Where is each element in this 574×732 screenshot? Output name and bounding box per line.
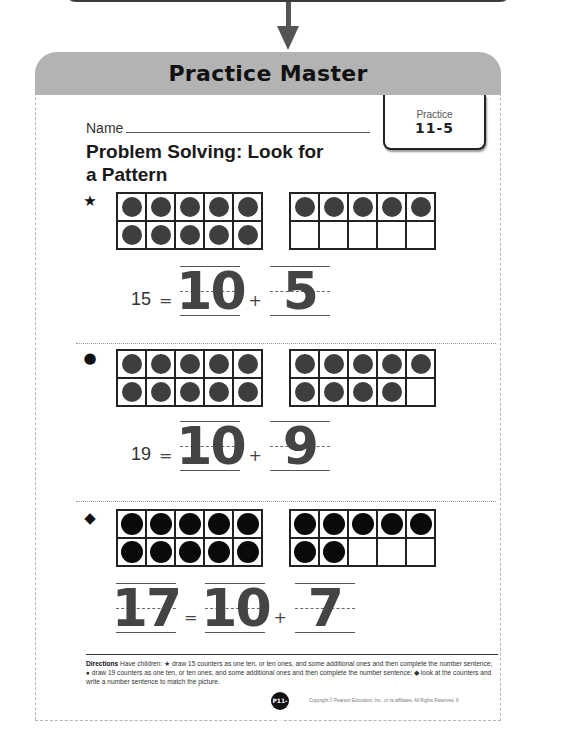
directions-text: Have children: ★ draw 15 counters as one… (86, 660, 492, 685)
directions: Directions Have children: ★ draw 15 coun… (86, 654, 498, 686)
lesson-tab: Practice 11-5 (383, 95, 486, 150)
ones-answer-box[interactable]: 7 (295, 583, 355, 633)
sheet-header: Practice Master (35, 52, 501, 95)
equation-total: 19 (131, 444, 151, 465)
plus-sign: + (248, 446, 261, 465)
number-sentence: 15 = 10 + 5 (131, 266, 330, 316)
equals-sign: = (159, 291, 172, 310)
practice-master-sheet: Practice Master Practice 11-5 Name Probl… (35, 52, 501, 721)
ones-answer-box[interactable]: 5 (270, 266, 330, 316)
section-divider (76, 343, 496, 344)
ones-answer: 5 (283, 267, 317, 315)
fish-icon: ◆ (82, 510, 98, 526)
ten-frame-right (289, 192, 436, 250)
number-sentence: 17 = 10 + 7 (116, 583, 355, 633)
directions-label: Directions (86, 660, 118, 667)
star-icon: ★ (82, 193, 98, 209)
header-title: Practice Master (168, 61, 367, 86)
total-answer-box[interactable]: 17 (116, 583, 176, 633)
tens-answer-box[interactable]: 10 (205, 583, 265, 633)
tens-answer-box[interactable]: 10 (180, 421, 240, 471)
plus-sign: + (273, 608, 286, 627)
section-divider (76, 501, 496, 502)
ones-answer: 9 (283, 422, 317, 470)
tens-answer: 10 (201, 584, 269, 632)
apple-icon: ● (82, 350, 98, 366)
ten-frame-left (116, 192, 263, 250)
page-badge: P11-5 (271, 692, 289, 710)
tens-answer: 10 (176, 422, 244, 470)
equals-sign: = (184, 608, 197, 627)
arrow-down-icon (277, 26, 299, 50)
lesson-tab-label: Practice (385, 109, 484, 120)
copyright-notice: Copyright © Pearson Education, Inc., or … (309, 698, 459, 703)
name-label: Name (86, 120, 123, 136)
ten-frame-left (116, 349, 263, 407)
name-field[interactable] (126, 131, 370, 133)
ones-answer: 7 (308, 584, 342, 632)
flow-arrow-shaft (286, 2, 291, 28)
worksheet-title: Problem Solving: Look for a Pattern (86, 140, 326, 186)
equation-total: 15 (131, 289, 151, 310)
ten-frame-left (116, 509, 263, 567)
ones-answer-box[interactable]: 9 (270, 421, 330, 471)
tens-answer: 10 (176, 267, 244, 315)
plus-sign: + (248, 291, 261, 310)
ten-frame-right (289, 509, 436, 567)
equals-sign: = (159, 446, 172, 465)
lesson-tab-number: 11-5 (385, 120, 484, 136)
number-sentence: 19 = 10 + 9 (131, 421, 330, 471)
tens-answer-box[interactable]: 10 (180, 266, 240, 316)
name-row: Name (86, 120, 370, 136)
ten-frame-right (289, 349, 436, 407)
total-answer: 17 (112, 584, 180, 632)
